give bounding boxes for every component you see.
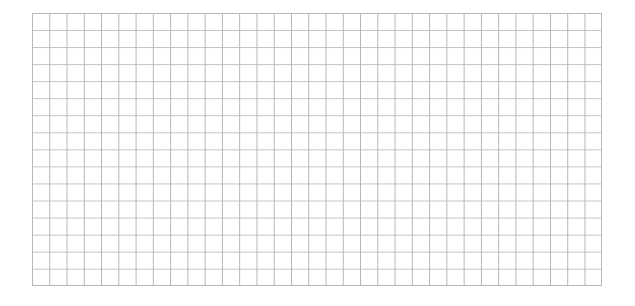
grid-edge-right: [601, 13, 602, 286]
grid-edge-top: [32, 13, 602, 14]
grid-edge-left: [32, 13, 33, 286]
grid-edge-bottom: [32, 285, 602, 286]
screenshot-canvas: [0, 0, 635, 306]
grid-panel: [32, 13, 602, 286]
